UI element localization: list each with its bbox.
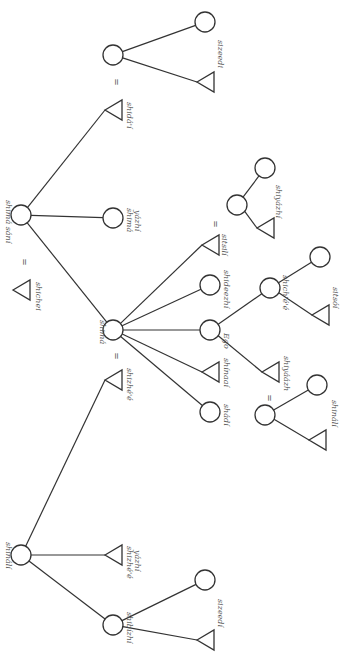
kinship-edge: [122, 334, 202, 372]
kinship-edge: [29, 561, 105, 619]
marriage-equals-sign: =: [111, 78, 121, 86]
marriage-equals-sign: =: [264, 394, 274, 402]
kin-term-label: shiyázhí: [274, 185, 283, 219]
marriage-marks-layer: =====: [19, 78, 274, 402]
nodes-layer: [11, 12, 330, 650]
kinship-edge: [122, 25, 195, 51]
kinship-edge: [243, 176, 259, 197]
female-circle-icon: [310, 247, 330, 267]
female-circle-icon: [103, 208, 123, 228]
kin-term-label: shinálí: [330, 400, 339, 428]
kinship-edge: [28, 110, 105, 207]
kin-term-label: sitsilí: [220, 234, 229, 257]
marriage-equals-sign: =: [111, 352, 121, 360]
male-triangle-icon: [262, 362, 279, 382]
female-circle-icon: [195, 12, 215, 32]
kin-term-label: shinálí: [4, 542, 13, 570]
female-circle-icon: [103, 615, 123, 635]
kin-term-label: shichei: [34, 282, 43, 311]
kinship-edge: [274, 390, 309, 410]
female-circle-icon: [195, 570, 215, 590]
kin-term-label: shibízhí: [125, 612, 134, 645]
marriage-equals-sign: =: [210, 220, 220, 228]
kin-term-label: yázhí: [133, 549, 142, 573]
kinship-diagram-svg: ===== shimá sáníshicheishimáyázhíshidá'í…: [0, 0, 354, 656]
kinship-diagram: ===== shimá sáníshicheishimáyázhíshidá'í…: [0, 0, 354, 656]
female-circle-icon: [227, 195, 247, 215]
male-triangle-icon: [202, 235, 219, 255]
kinship-edge: [122, 289, 201, 326]
kin-term-label: shizhé'é: [125, 368, 134, 401]
kinship-edge: [123, 58, 197, 82]
edges-layer: [26, 25, 312, 640]
female-circle-icon: [11, 545, 31, 565]
kin-term-label: shádí: [222, 404, 231, 427]
female-circle-icon: [255, 158, 275, 178]
kinship-edge: [121, 245, 202, 323]
female-circle-icon: [200, 275, 220, 295]
marriage-equals-sign: =: [19, 258, 29, 266]
kin-term-label: shimá: [125, 208, 134, 232]
kin-term-label: yázhí: [133, 209, 142, 233]
female-circle-icon: [11, 205, 31, 225]
kin-term-label: shideezhí: [222, 270, 231, 310]
kin-term-label: shimá: [98, 320, 107, 344]
kinship-edge: [26, 380, 105, 546]
kin-term-label: sizeedí: [216, 599, 225, 628]
female-circle-icon: [255, 405, 275, 425]
male-triangle-icon: [309, 430, 326, 450]
male-triangle-icon: [312, 305, 329, 325]
kinship-edge: [31, 215, 103, 217]
male-triangle-icon: [105, 370, 122, 390]
male-triangle-icon: [13, 280, 30, 300]
kin-term-label: sizeedi: [216, 40, 225, 68]
male-triangle-icon: [257, 218, 274, 238]
female-circle-icon: [200, 402, 220, 422]
kin-term-label: shiyáázh: [282, 356, 291, 391]
female-circle-icon: [200, 320, 220, 340]
male-triangle-icon: [197, 630, 214, 650]
female-circle-icon: [260, 278, 280, 298]
female-circle-icon: [307, 375, 327, 395]
kin-term-label: shimá sání: [4, 200, 13, 245]
kin-term-label: shich'é'é: [281, 275, 290, 311]
male-triangle-icon: [105, 100, 122, 120]
female-circle-icon: [103, 45, 123, 65]
kinship-edge: [274, 419, 309, 440]
male-triangle-icon: [105, 545, 122, 565]
labels-layer: shimá sáníshicheishimáyázhíshidá'ísizeed…: [4, 40, 340, 645]
kinship-edge: [245, 211, 257, 228]
kin-term-label: sitsóí: [331, 287, 340, 310]
kin-term-label: shínaaí: [222, 358, 231, 389]
male-triangle-icon: [197, 72, 214, 92]
kin-term-label: Ego: [222, 332, 231, 349]
kin-term-label: shidá'í: [125, 102, 134, 130]
male-triangle-icon: [202, 362, 219, 382]
kin-term-label: shizhé'é: [125, 546, 134, 579]
